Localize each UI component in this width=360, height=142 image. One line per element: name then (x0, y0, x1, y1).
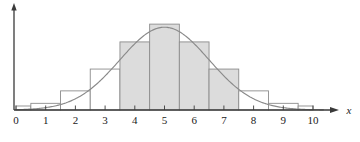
x-axis-tick-label: 5 (162, 114, 168, 126)
x-axis-arrowhead (330, 107, 339, 113)
y-axis-arrowhead (11, 3, 16, 11)
histogram-bar-shaded (150, 24, 180, 110)
histogram-bar-shaded (120, 42, 150, 110)
histogram-with-normal-curve-figure: 012345678910 x (0, 0, 360, 142)
x-axis-label: x (346, 104, 352, 116)
x-axis-tick-label: 8 (251, 114, 257, 126)
x-axis-tick-label: 2 (73, 114, 79, 126)
x-axis-tick-label: 3 (102, 114, 108, 126)
x-axis-tick-label: 0 (13, 114, 19, 126)
x-axis-tick-label: 10 (308, 114, 320, 126)
x-axis-tick-label: 9 (281, 114, 287, 126)
bars-group (16, 24, 313, 110)
x-axis-tick-label: 4 (132, 114, 138, 126)
x-axis-tick-labels-group: 012345678910 (13, 114, 319, 126)
histogram-bar-shaded (179, 42, 209, 110)
x-axis-tick-label: 6 (191, 114, 197, 126)
x-axis-tick-label: 7 (221, 114, 227, 126)
x-axis-tick-label: 1 (43, 114, 49, 126)
